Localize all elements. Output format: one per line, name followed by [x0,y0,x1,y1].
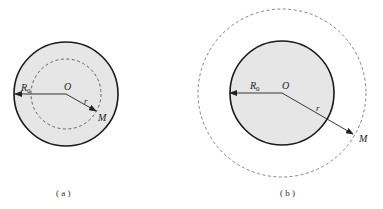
label-point-m-b: M [358,133,368,144]
label-r-b: r [316,103,320,113]
label-point-m-a: M [97,112,107,123]
label-center-b: O [282,80,289,91]
caption-b: ( b ) [280,188,295,198]
caption-a: ( a ) [56,188,71,198]
label-r-a: r [84,96,88,106]
label-center-a: O [64,81,71,92]
figure-a: R0 O r M ( a ) [14,42,118,198]
figure-b: R0 O r M ( b ) [198,9,368,198]
diagram-canvas: R0 O r M ( a ) R0 O r M ( b ) [0,0,383,209]
